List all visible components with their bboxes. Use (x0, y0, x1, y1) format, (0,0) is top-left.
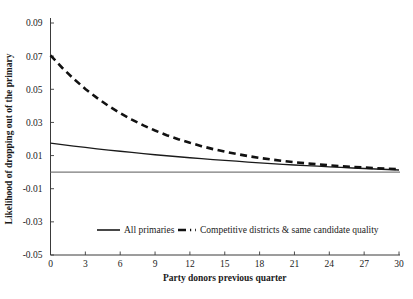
x-axis-tick-marks (51, 252, 400, 256)
legend-label-all-primaries: All primaries (124, 225, 175, 235)
x-tick-label: 27 (359, 259, 369, 269)
x-tick-label: 30 (394, 259, 404, 269)
x-tick-label: 15 (220, 259, 230, 269)
y-tick-label: -0.01 (23, 184, 43, 194)
y-tick-label: 0.09 (26, 18, 43, 28)
series-line-competitive-districts (51, 55, 400, 169)
x-tick-label: 9 (153, 259, 158, 269)
y-axis-title: Likelihood of dropping out of the primar… (4, 53, 14, 224)
y-tick-label: 0.01 (26, 151, 43, 161)
x-tick-label: 24 (325, 259, 335, 269)
y-tick-label: 0.05 (26, 85, 43, 95)
x-tick-label: 0 (48, 259, 53, 269)
x-axis-tick-labels: 036912151821242730 (48, 259, 404, 269)
x-tick-label: 12 (185, 259, 195, 269)
line-chart: 0.090.070.050.030.01-0.01-0.03-0.05 0369… (0, 0, 413, 299)
y-tick-label: 0.07 (26, 52, 43, 62)
x-tick-label: 18 (255, 259, 265, 269)
x-tick-label: 21 (290, 259, 300, 269)
y-tick-label: -0.05 (23, 250, 43, 260)
x-axis-title: Party donors previous quarter (163, 273, 287, 283)
y-axis-tick-labels: 0.090.070.050.030.01-0.01-0.03-0.05 (23, 18, 43, 260)
y-tick-label: -0.03 (23, 217, 43, 227)
x-tick-label: 6 (118, 259, 123, 269)
y-tick-label: 0.03 (26, 118, 43, 128)
x-tick-label: 3 (83, 259, 88, 269)
legend-label-competitive-districts: Competitive districts & same candidate q… (200, 225, 379, 235)
chart-page: 0.090.070.050.030.01-0.01-0.03-0.05 0369… (0, 0, 413, 299)
